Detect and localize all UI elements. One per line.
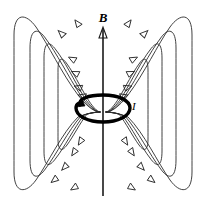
field-arrow-icon (68, 53, 78, 63)
field-arrow-icon (128, 183, 137, 190)
magnetic-field-diagram: B I (0, 0, 199, 206)
field-arrow-icon (128, 53, 138, 63)
field-lines-right (106, 17, 192, 190)
field-arrow-icon (70, 183, 79, 190)
field-arrowheads-left-lower (49, 136, 84, 190)
field-label-b: B (98, 10, 108, 25)
field-arrow-icon (75, 18, 83, 27)
field-diagram-canvas: B I (0, 0, 199, 206)
field-arrow-icon (121, 136, 131, 146)
field-line-right-3 (106, 31, 176, 176)
magnetic-field-axis (99, 27, 107, 196)
current-label-i: I (131, 100, 137, 112)
field-arrow-icon (68, 146, 78, 155)
field-arrow-icon (123, 18, 131, 27)
field-arrow-icon (75, 136, 85, 146)
field-arrow-icon (139, 28, 148, 38)
field-lines-left (14, 17, 100, 190)
field-arrow-icon (59, 161, 69, 170)
field-arrow-icon (58, 28, 67, 38)
field-arrow-icon (147, 175, 156, 183)
field-arrowheads-right-lower (121, 136, 156, 190)
field-line-left-3 (30, 31, 100, 176)
field-arrow-icon (49, 175, 58, 183)
field-arrow-icon (128, 146, 138, 155)
field-arrow-icon (137, 161, 147, 170)
